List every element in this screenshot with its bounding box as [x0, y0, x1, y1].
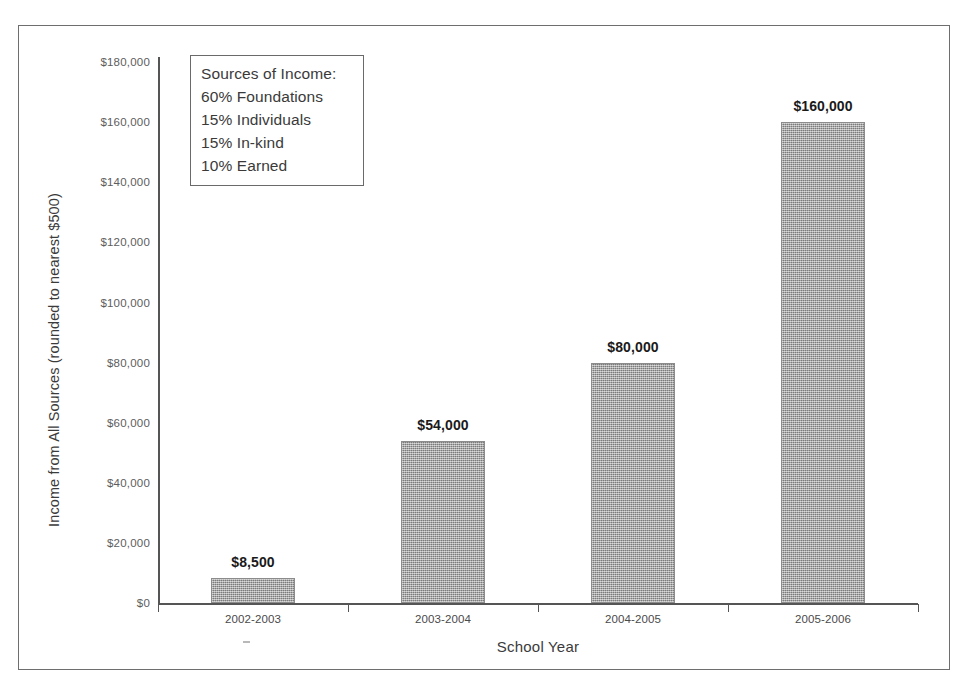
- legend-lines: 60% Foundations15% Individuals15% In-kin…: [201, 85, 355, 177]
- bar-value-label: $160,000: [753, 98, 893, 114]
- scan-artifact: [243, 641, 250, 643]
- y-tick-label: $160,000: [66, 116, 150, 128]
- y-tick-label: $180,000: [66, 56, 150, 68]
- y-tick-label: $140,000: [66, 176, 150, 188]
- bar: [591, 363, 675, 604]
- y-tick-label: $20,000: [66, 537, 150, 549]
- bar: [781, 122, 865, 603]
- bar-value-label: $80,000: [563, 339, 703, 355]
- legend-title: Sources of Income:: [201, 62, 355, 85]
- legend-line: 60% Foundations: [201, 85, 355, 108]
- y-tick-label: $60,000: [66, 417, 150, 429]
- sources-of-income-box: Sources of Income: 60% Foundations15% In…: [190, 55, 364, 186]
- x-category-label: 2003-2004: [373, 613, 513, 625]
- chart-page: $0$20,000$40,000$60,000$80,000$100,000$1…: [0, 0, 966, 698]
- y-tick-label: $40,000: [66, 477, 150, 489]
- x-axis-title: School Year: [158, 638, 918, 655]
- y-axis-title: Income from All Sources (rounded to near…: [46, 100, 62, 620]
- legend-line: 15% Individuals: [201, 108, 355, 131]
- bar-value-label: $8,500: [183, 554, 323, 570]
- legend-line: 15% In-kind: [201, 131, 355, 154]
- x-category-label: 2004-2005: [563, 613, 703, 625]
- bar: [401, 441, 485, 603]
- bar: [211, 578, 295, 604]
- x-category-label: 2005-2006: [753, 613, 893, 625]
- y-tick-label: $120,000: [66, 236, 150, 248]
- y-tick-label: $80,000: [66, 357, 150, 369]
- legend-line: 10% Earned: [201, 154, 355, 177]
- bar-value-label: $54,000: [373, 417, 513, 433]
- y-axis-tick-labels: $0$20,000$40,000$60,000$80,000$100,000$1…: [60, 0, 150, 698]
- y-tick-label: $0: [66, 597, 150, 609]
- x-category-label: 2002-2003: [183, 613, 323, 625]
- y-tick-label: $100,000: [66, 297, 150, 309]
